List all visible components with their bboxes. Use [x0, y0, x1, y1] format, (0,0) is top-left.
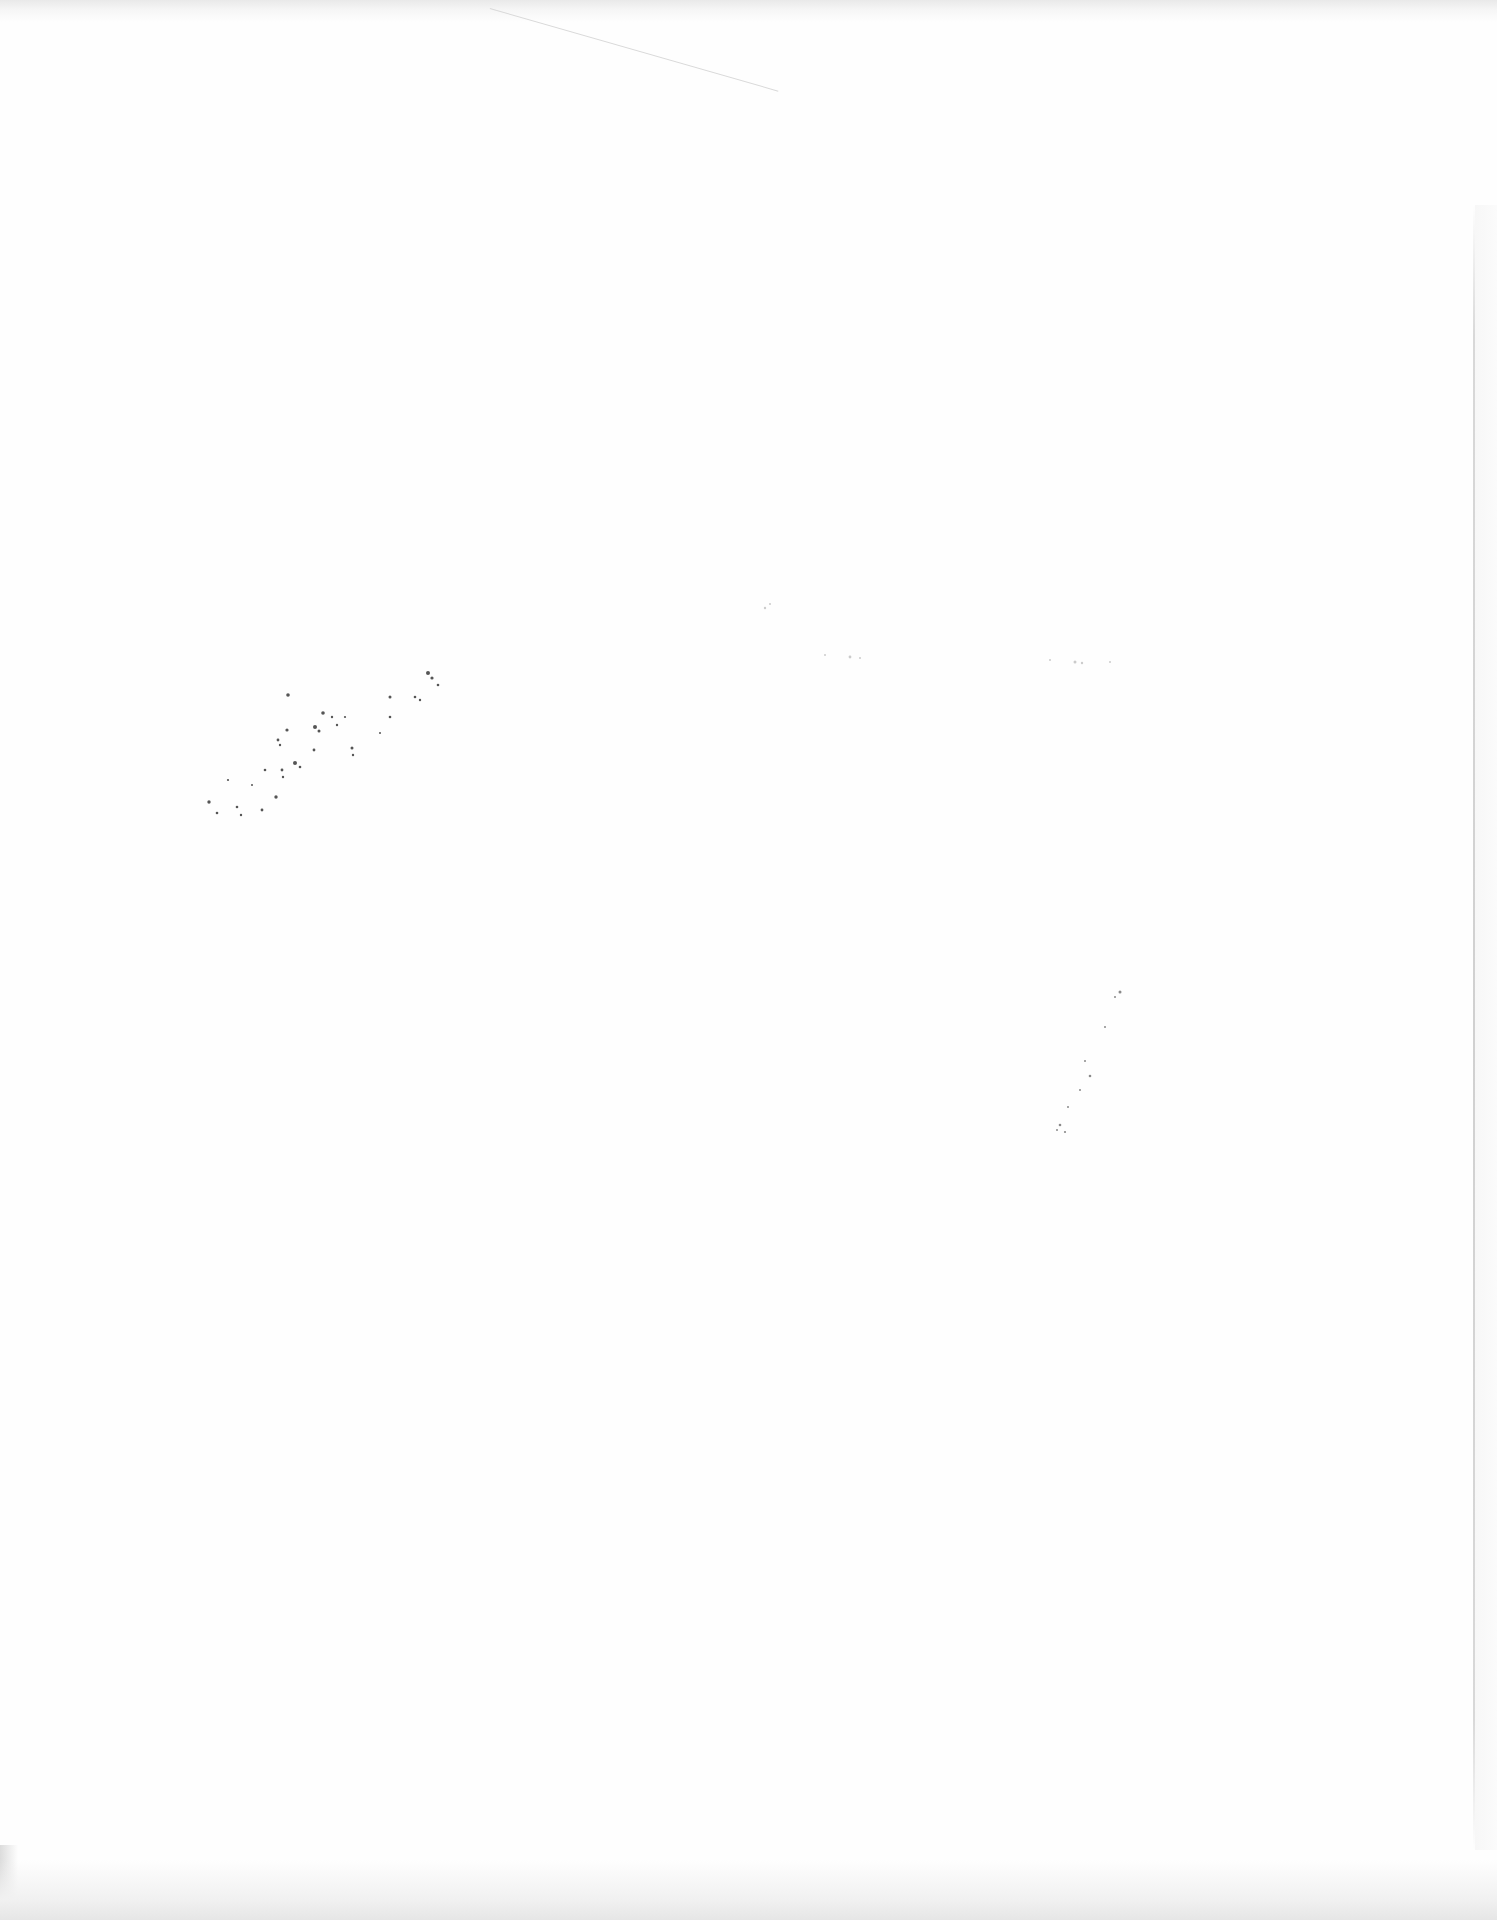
- page-edge-line: [1473, 205, 1475, 1850]
- speckle-cluster-small: [1030, 980, 1140, 1150]
- bottom-scan-shadow: [0, 1860, 1497, 1920]
- top-scan-shadow: [0, 0, 1497, 22]
- page-edge-shade: [1475, 205, 1497, 1850]
- speckle-cluster: [190, 645, 460, 835]
- blank-document-page: [0, 0, 1497, 1920]
- faint-bleed-through: [720, 580, 1140, 700]
